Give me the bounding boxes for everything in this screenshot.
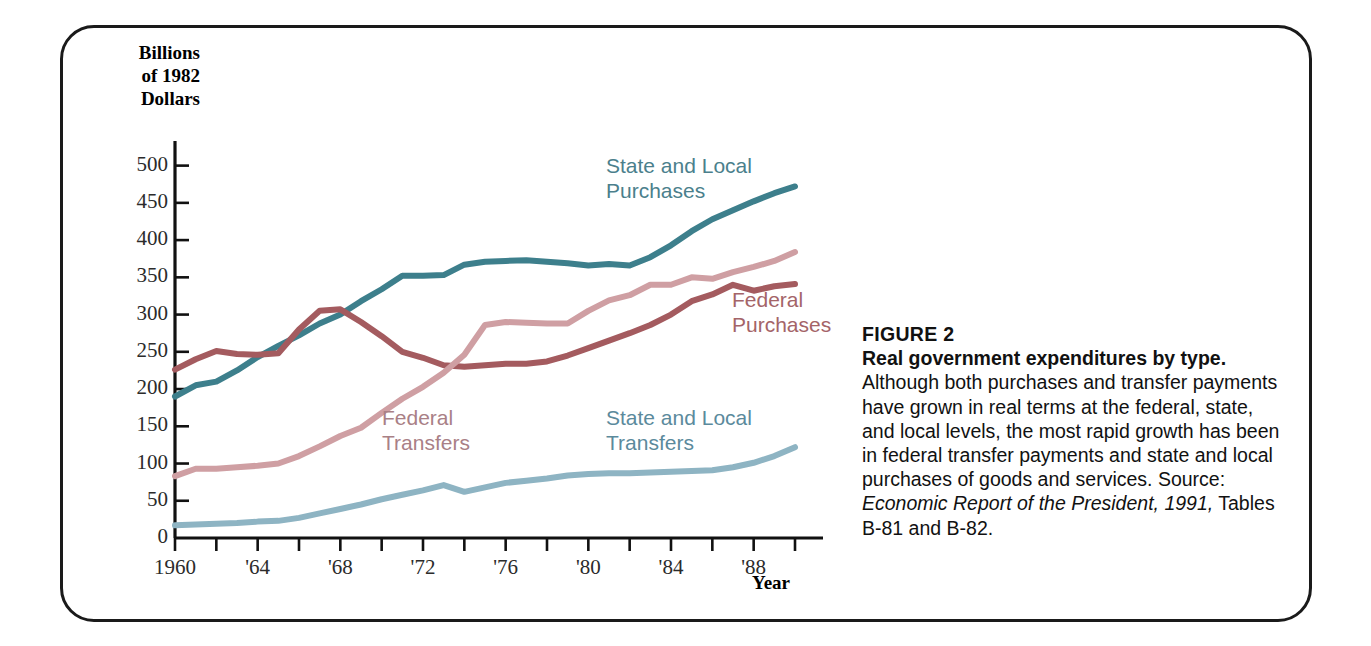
x-tick-label: '88: [714, 555, 794, 580]
y-tick-label: 300: [80, 301, 168, 326]
figure-source-italic: Economic Report of the President, 1991,: [862, 492, 1213, 514]
y-tick-label: 500: [80, 152, 168, 177]
y-tick-label: 250: [80, 338, 168, 363]
y-tick-label: 450: [80, 189, 168, 214]
y-tick-label: 0: [80, 524, 168, 549]
series-label-state-and-local-purchases: State and Local Purchases: [606, 153, 752, 203]
y-tick-label: 400: [80, 226, 168, 251]
x-tick-label: '72: [383, 555, 463, 580]
figure-number: FIGURE 2: [862, 322, 1282, 346]
series-line: [175, 447, 795, 525]
x-tick-label: 1960: [135, 555, 215, 580]
figure-body-text: Although both purchases and transfer pay…: [862, 371, 1279, 490]
y-tick-label: 150: [80, 412, 168, 437]
x-tick-label: '76: [466, 555, 546, 580]
series-label-federal-transfers: Federal Transfers: [382, 405, 470, 455]
y-tick-label: 50: [80, 487, 168, 512]
x-tick-label: '68: [300, 555, 380, 580]
y-tick-label: 100: [80, 450, 168, 475]
y-tick-label: 200: [80, 375, 168, 400]
figure-title: Real government expenditures by type.: [862, 347, 1226, 369]
y-tick-label: 350: [80, 263, 168, 288]
x-tick-label: '80: [548, 555, 628, 580]
chart-area: Billions of 1982 Dollars Year 0501001502…: [60, 25, 850, 622]
x-tick-label: '64: [218, 555, 298, 580]
series-label-federal-purchases: Federal Purchases: [732, 287, 831, 337]
series-label-state-and-local-transfers: State and Local Transfers: [606, 405, 752, 455]
x-tick-label: '84: [631, 555, 711, 580]
figure-caption: FIGURE 2Real government expenditures by …: [862, 322, 1282, 540]
